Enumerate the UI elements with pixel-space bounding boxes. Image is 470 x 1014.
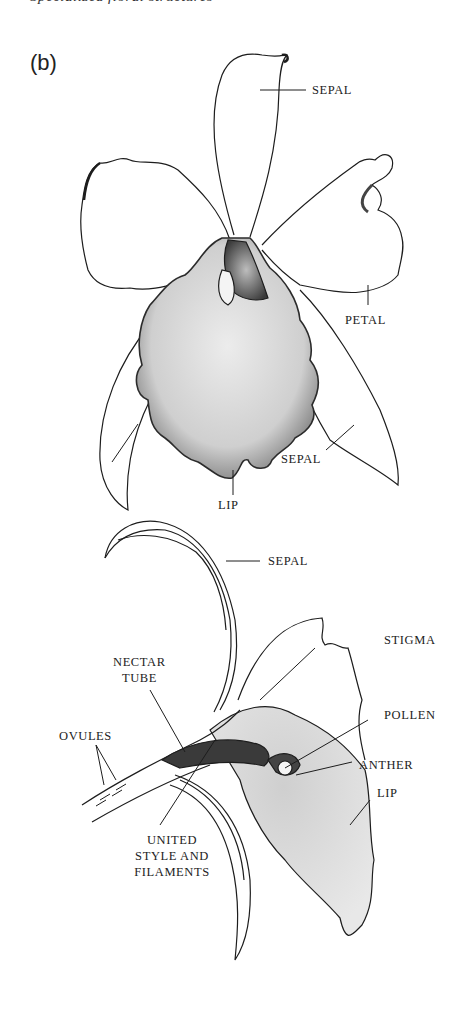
label-anther: ANTHER (359, 757, 413, 773)
label-united-line3: FILAMENTS (112, 864, 232, 880)
label-lip-side: LIP (377, 785, 398, 801)
label-pollen: POLLEN (384, 707, 436, 723)
label-sepal-side: SEPAL (268, 553, 308, 569)
label-ovules: OVULES (59, 728, 112, 744)
label-stigma: STIGMA (384, 632, 436, 648)
label-nectar-tube-line2: TUBE (122, 670, 157, 686)
label-united-line1: UNITED (127, 832, 217, 848)
label-united-line2: STYLE AND (112, 848, 232, 864)
label-nectar-tube-line1: NECTAR (113, 654, 166, 670)
orchid-side-view-illustration (0, 0, 470, 1014)
